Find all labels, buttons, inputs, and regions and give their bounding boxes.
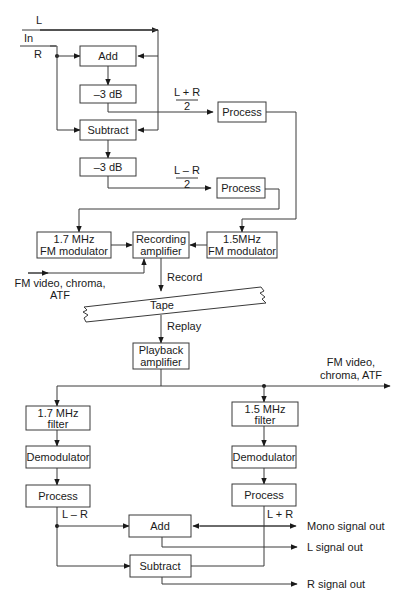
lmr-label: L – R [62, 508, 88, 520]
play-line2: amplifier [140, 356, 182, 368]
fm-video-input-line1: FM video, chroma, [14, 277, 105, 289]
encoder-att2-label: –3 dB [94, 161, 123, 173]
input-l-label: L [36, 14, 42, 26]
diff-denominator: 2 [184, 178, 190, 190]
record-label: Record [167, 271, 202, 283]
rec-line1: Recording [136, 233, 186, 245]
encoder-process2-label: Process [221, 182, 261, 194]
mod15-line1: 1.5MHz [223, 233, 261, 245]
decoder-process2-label: Process [244, 489, 284, 501]
encoder-att1-label: –3 dB [94, 88, 123, 100]
filt17-line2: filter [48, 418, 69, 430]
input-r-label: R [34, 48, 42, 60]
mod17-line2: FM modulator [40, 245, 108, 257]
sum-numerator: L + R [174, 86, 200, 98]
input-in-label: In [24, 32, 33, 44]
encoder-add-label: Add [98, 50, 118, 62]
input-lines [20, 30, 158, 130]
mod15-line2: FM modulator [208, 245, 276, 257]
diff-numerator: L – R [174, 164, 200, 176]
mod17-line1: 1.7 MHz [54, 233, 95, 245]
sum-denominator: 2 [184, 100, 190, 112]
play-line1: Playback [139, 344, 184, 356]
stereo-audio-block-diagram: L In R Add –3 dB L + R 2 Process Subtrac… [0, 0, 408, 603]
l-out-label: L signal out [307, 541, 363, 553]
tape-strip [83, 287, 266, 322]
tape-label: Tape [150, 299, 174, 311]
decoder-add-label: Add [150, 520, 170, 532]
lpr-label: L + R [267, 508, 293, 520]
filt15-line2: filter [255, 414, 276, 426]
fm-video-input-line2: ATF [50, 289, 70, 301]
r-out-label: R signal out [307, 578, 365, 590]
demod2-label: Demodulator [233, 451, 296, 463]
encoder-subtract-label: Subtract [88, 124, 129, 136]
decoder-process1-label: Process [38, 490, 78, 502]
rec-line2: amplifier [140, 245, 182, 257]
fm-video-output-line1: FM video, [327, 356, 375, 368]
fm-video-output-line2: chroma, ATF [320, 369, 382, 381]
mono-out-label: Mono signal out [307, 520, 385, 532]
encoder-process1-label: Process [222, 106, 262, 118]
demod1-label: Demodulator [27, 451, 90, 463]
decoder-subtract-label: Subtract [140, 560, 181, 572]
replay-label: Replay [167, 320, 202, 332]
